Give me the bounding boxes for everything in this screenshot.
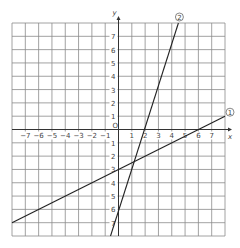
y-tick-label: 1: [111, 140, 115, 148]
y-tick-label: 2: [111, 100, 115, 108]
y-tick-label: 1: [111, 113, 115, 121]
x-tick-label: −5: [47, 132, 57, 140]
x-tick-label: −4: [60, 132, 71, 140]
origin-label: O: [113, 122, 119, 130]
line-2-label: 2: [177, 14, 181, 22]
y-axis-arrow-icon: [117, 16, 121, 20]
x-tick-label: −6: [33, 132, 44, 140]
x-tick-label: 1: [130, 132, 134, 140]
x-tick-label: −2: [87, 132, 97, 140]
y-tick-label: 7: [111, 33, 115, 41]
y-axis-label: y: [112, 9, 118, 17]
axes: xyO: [12, 9, 233, 236]
x-tick-label: 7: [209, 132, 213, 140]
x-axis-label: x: [227, 133, 233, 141]
y-tick-label: 4: [111, 73, 116, 81]
x-tick-label: 4: [170, 132, 175, 140]
line-1-label: 1: [228, 109, 232, 117]
x-tick-label: −1: [100, 132, 110, 140]
y-tick-label: 2: [111, 153, 115, 161]
y-tick-label: 6: [111, 206, 116, 214]
y-tick-label: 5: [111, 193, 115, 201]
x-tick-label: −3: [73, 132, 83, 140]
x-tick-label: 6: [196, 132, 201, 140]
y-tick-label: 5: [111, 60, 115, 68]
y-tick-label: 3: [111, 87, 115, 95]
x-axis-arrow-icon: [228, 128, 232, 132]
x-tick-label: −7: [20, 132, 30, 140]
x-tick-label: 3: [156, 132, 160, 140]
y-tick-label: 6: [111, 47, 116, 55]
y-tick-label: 4: [111, 180, 116, 188]
coordinate-plane: xyO −7−6−5−4−3−2−1123456776543211234567 …: [0, 0, 240, 248]
